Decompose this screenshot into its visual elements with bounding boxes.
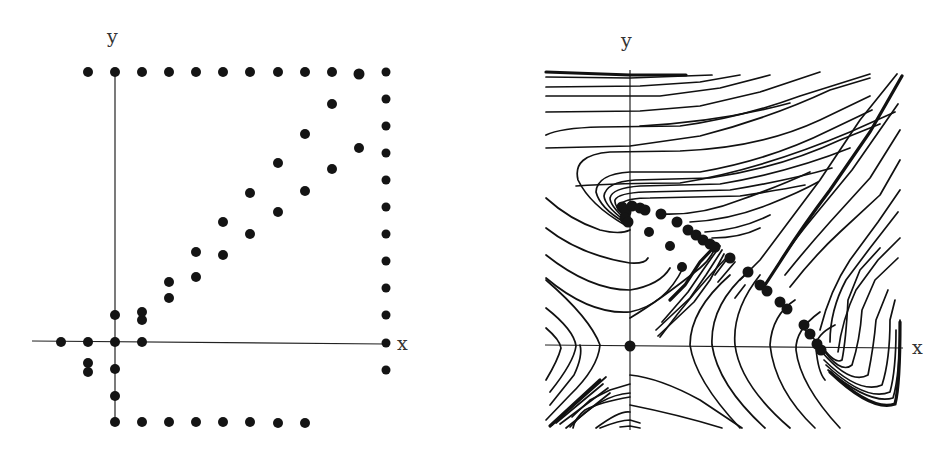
left-panel: y x [32,25,408,428]
right-x-axis-label: x [912,336,923,358]
left-lower-diagonal-dots [137,143,364,325]
left-x-axis-label: x [397,332,408,354]
figure-canvas: y x [0,0,947,453]
right-saddle-curves [546,280,742,428]
right-x-axis [545,345,903,348]
left-y-axis-label: y [106,25,118,47]
right-y-axis-label: y [620,29,632,51]
right-hook-curves [740,74,902,405]
left-bottom-boundary-dots [110,417,310,428]
right-isolated-dots [644,227,687,272]
left-near-origin-dots [56,307,147,401]
left-right-boundary-dots [382,95,391,375]
right-left-flow-curves [546,198,716,318]
right-fixed-point-dot [625,341,636,352]
left-top-boundary-dots [83,67,391,80]
right-panel: y x [545,29,923,430]
left-upper-diagonal-dots [164,99,337,287]
